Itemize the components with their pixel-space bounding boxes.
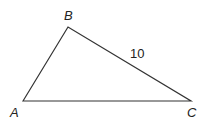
triangle-abc: [23, 27, 191, 101]
vertex-label-c: C: [187, 105, 197, 120]
triangle-diagram: B A C 10: [0, 0, 207, 123]
side-label-bc: 10: [130, 46, 144, 61]
vertex-label-b: B: [64, 8, 73, 23]
vertex-label-a: A: [9, 105, 19, 120]
